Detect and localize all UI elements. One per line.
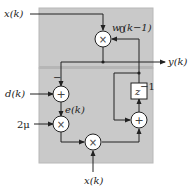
- junction-dot: [137, 71, 140, 74]
- svg-text:×: ×: [89, 137, 97, 148]
- panel-divider: [39, 66, 153, 69]
- desired-label: d(k): [5, 88, 25, 99]
- multiplier-top: ×: [95, 31, 111, 47]
- step-label: 2μ: [17, 119, 30, 130]
- error-label: e(k): [65, 104, 85, 115]
- svg-text:+: +: [134, 114, 143, 127]
- weight-arg: (k−1): [123, 22, 152, 33]
- input-bottom-label: x(k): [84, 175, 104, 186]
- adder-update: +: [131, 112, 147, 128]
- svg-text:+: +: [56, 88, 65, 101]
- adder-error: +: [53, 86, 69, 102]
- svg-text:×: ×: [57, 119, 65, 130]
- input-top-label: x(k): [4, 8, 24, 19]
- minus-sign: −: [53, 72, 61, 83]
- lms-block-diagram: × + × × + z −1 x(k) w 0 (k−1) y(k) − d(k…: [0, 0, 194, 192]
- svg-text:×: ×: [99, 34, 107, 45]
- delay-exp: −1: [140, 81, 155, 92]
- junction-dot: [101, 60, 104, 63]
- multiplier-mu: ×: [53, 116, 69, 132]
- output-label: y(k): [167, 56, 188, 67]
- multiplier-bottom: ×: [85, 134, 101, 150]
